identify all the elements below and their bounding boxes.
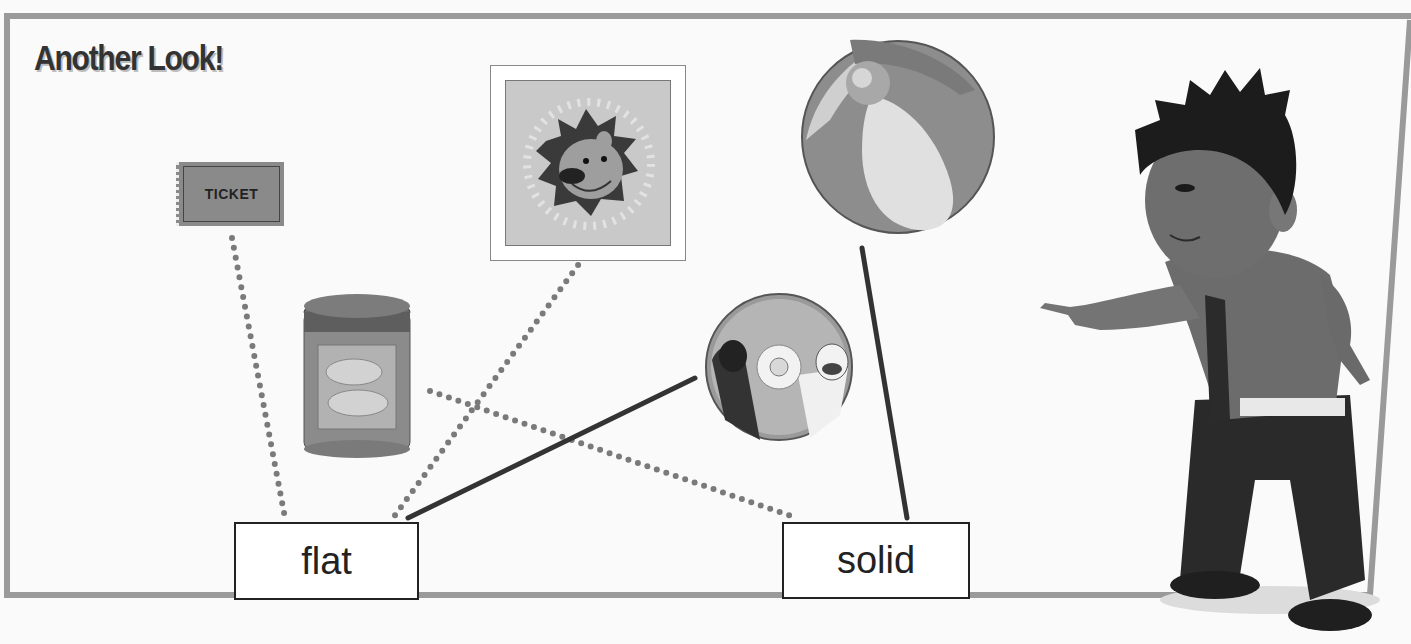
category-label-flat: flat <box>301 540 352 583</box>
lion-face-icon <box>506 81 671 246</box>
worksheet-page: Another Look! TICKET flat solid <box>0 0 1411 644</box>
cd-image[interactable] <box>706 294 852 440</box>
worksheet-title: Another Look! <box>34 38 223 78</box>
category-label-solid: solid <box>837 539 915 582</box>
lion-stamp-inner <box>505 80 671 246</box>
worksheet-frame <box>0 0 1411 644</box>
lion-stamp-image[interactable] <box>490 65 686 261</box>
boy-character-illustration <box>1040 68 1380 631</box>
ticket-image[interactable]: TICKET <box>176 162 284 226</box>
beach-ball-image[interactable] <box>802 41 994 233</box>
category-box-solid[interactable]: solid <box>782 522 970 599</box>
ticket-text: TICKET <box>183 166 280 222</box>
peanut-can-image[interactable] <box>304 294 410 454</box>
connector-ball-solid <box>862 248 907 518</box>
category-box-flat[interactable]: flat <box>234 522 419 600</box>
connector-ticket-flat <box>232 238 285 518</box>
